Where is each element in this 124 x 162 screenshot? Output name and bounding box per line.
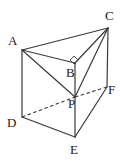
vertex-label-F: F — [108, 83, 115, 96]
geometry-figure: A B C D E F P — [0, 0, 124, 162]
edge-EF — [75, 87, 107, 137]
edge-DE — [22, 117, 75, 137]
geometry-canvas — [0, 0, 124, 162]
vertex-label-A: A — [8, 34, 17, 47]
edge-CP — [75, 28, 108, 97]
vertex-label-D: D — [7, 116, 16, 129]
vertex-label-B: B — [66, 66, 75, 79]
vertex-label-C: C — [105, 9, 114, 22]
edge-AC — [22, 28, 108, 50]
edge-BC — [75, 28, 108, 63]
vertex-label-E: E — [70, 143, 78, 156]
edge-CF — [107, 28, 108, 87]
vertex-label-P: P — [68, 97, 75, 110]
